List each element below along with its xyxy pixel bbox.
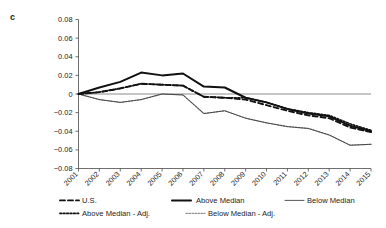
x-tick-label: 2003 bbox=[104, 170, 122, 188]
x-tick-label: 2007 bbox=[187, 170, 205, 188]
x-tick-label: 2009 bbox=[229, 170, 247, 188]
legend-label-u-s: U.S. bbox=[82, 196, 97, 205]
figure-panel-c: c 0.080.060.040.020−0.02−0.04−0.06−0.08 … bbox=[0, 0, 386, 228]
legend-label-above-median: Above Median bbox=[196, 196, 245, 205]
x-tick-label: 2004 bbox=[125, 170, 143, 188]
legend-label-below-median: Below Median bbox=[307, 196, 355, 205]
y-axis: 0.080.060.040.020−0.02−0.04−0.06−0.08 bbox=[54, 15, 79, 173]
x-tick-label: 2005 bbox=[145, 170, 163, 188]
x-tick-label: 2002 bbox=[83, 170, 101, 188]
chart-legend: U.S.Above MedianBelow MedianAbove Median… bbox=[60, 196, 355, 218]
x-axis: 2001200220032004200520062007200820092010… bbox=[62, 169, 372, 188]
y-tick-label: −0.02 bbox=[54, 108, 73, 117]
series-lines bbox=[79, 73, 372, 146]
y-tick-label: −0.08 bbox=[54, 164, 73, 173]
x-tick-label: 2014 bbox=[334, 170, 352, 188]
series-line-above-median-adj bbox=[79, 84, 372, 131]
x-tick-label: 2012 bbox=[292, 170, 310, 188]
line-chart: 0.080.060.040.020−0.02−0.04−0.06−0.08 20… bbox=[0, 0, 386, 228]
x-tick-label: 2008 bbox=[208, 170, 226, 188]
y-tick-label: 0.02 bbox=[58, 71, 72, 80]
y-tick-label: 0.06 bbox=[58, 34, 72, 43]
y-tick-label: −0.04 bbox=[54, 127, 73, 136]
x-tick-label: 2015 bbox=[354, 170, 372, 188]
x-tick-label: 2010 bbox=[250, 170, 268, 188]
series-line-u-s bbox=[79, 84, 372, 132]
y-tick-label: −0.06 bbox=[54, 145, 73, 154]
y-tick-label: 0.08 bbox=[58, 15, 72, 24]
x-tick-label: 2013 bbox=[313, 170, 331, 188]
x-tick-label: 2006 bbox=[166, 170, 184, 188]
legend-label-above-median-adj: Above Median - Adj. bbox=[82, 209, 150, 218]
y-tick-label: 0.04 bbox=[58, 52, 72, 61]
y-tick-label: 0 bbox=[68, 90, 72, 99]
x-tick-label: 2011 bbox=[271, 170, 289, 188]
series-line-below-median bbox=[79, 94, 372, 145]
legend-label-below-median-adj: Below Median - Adj. bbox=[208, 209, 275, 218]
